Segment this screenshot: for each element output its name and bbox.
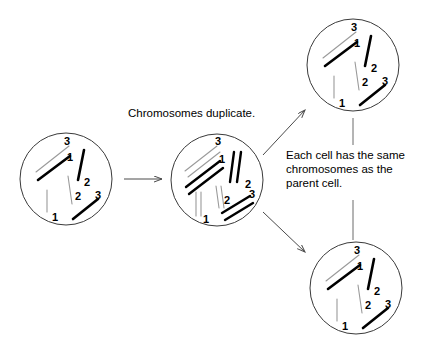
top-label-2-bottom: 2 — [362, 76, 368, 88]
dup-label-3-bottom: 3 — [249, 188, 255, 200]
bottom-label-1-top: 1 — [357, 260, 363, 272]
dup-label-1-top: 1 — [219, 153, 225, 165]
parent-label-1-top: 1 — [67, 151, 73, 163]
mitosis-diagram: 3 1 2 1 2 3 3 1 2 1 — [0, 0, 436, 344]
bottom-label-3-top: 3 — [354, 244, 360, 256]
top-label-3-bottom: 3 — [382, 75, 388, 87]
arrow-to-bottom-daughter — [263, 212, 305, 252]
parent-label-2-right: 2 — [84, 176, 90, 188]
top-daughter-cell: 3 1 2 1 2 3 — [307, 19, 399, 111]
caption-same-chromosomes: Each cell has the same chromosomes as th… — [286, 148, 426, 190]
parent-label-3-top: 3 — [64, 135, 70, 147]
parent-label-3-bottom: 3 — [95, 189, 101, 201]
bottom-daughter-cell: 3 1 2 1 2 3 — [310, 242, 402, 334]
bottom-label-2-bottom: 2 — [365, 299, 371, 311]
top-label-1-bottom: 1 — [339, 97, 345, 109]
top-label-2-right: 2 — [371, 62, 377, 74]
top-label-1-top: 1 — [354, 37, 360, 49]
parent-cell: 3 1 2 1 2 3 — [20, 133, 112, 225]
top-label-3-top: 3 — [351, 21, 357, 33]
caption-chromosomes-duplicate: Chromosomes duplicate. — [128, 106, 255, 120]
dup-label-1-bottom: 1 — [203, 213, 209, 225]
parent-label-2-bottom: 2 — [75, 190, 81, 202]
bottom-label-3-bottom: 3 — [385, 298, 391, 310]
dup-label-2-bottom: 2 — [224, 194, 230, 206]
bottom-label-2-right: 2 — [374, 285, 380, 297]
dup-label-3-top: 3 — [215, 135, 221, 147]
parent-label-1-bottom: 1 — [52, 211, 58, 223]
duplicated-cell: 3 1 2 1 2 3 — [171, 134, 263, 226]
bottom-label-1-bottom: 1 — [342, 320, 348, 332]
